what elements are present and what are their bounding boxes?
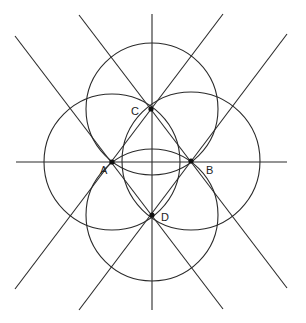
geometric-diagram: ABCD <box>0 0 306 323</box>
line-c-b <box>79 15 287 288</box>
line-c-a <box>15 14 223 289</box>
labels-group: ABCD <box>100 105 213 223</box>
point-label-c: C <box>131 105 139 117</box>
point-label-b: B <box>206 164 213 176</box>
point-b <box>188 158 193 163</box>
line-a-d <box>15 36 223 309</box>
point-label-d: D <box>161 211 169 223</box>
point-d <box>149 212 154 217</box>
lines-group <box>15 14 287 310</box>
point-label-a: A <box>100 164 108 176</box>
line-b-d <box>79 34 287 310</box>
point-c <box>148 106 153 111</box>
point-a <box>109 159 114 164</box>
